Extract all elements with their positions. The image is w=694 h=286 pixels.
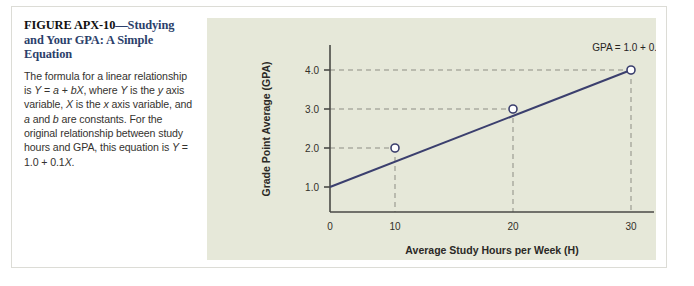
figure-number-label: FIGURE APX-10	[24, 18, 115, 32]
x-tick-label-20: 20	[507, 221, 519, 232]
x-tick-label-30: 30	[625, 221, 637, 232]
x-axis-title: Average Study Hours per Week (H)	[405, 244, 578, 256]
equation-annotation: GPA = 1.0 + 0.1H	[592, 42, 656, 53]
figure-caption-column: FIGURE APX-10—Studying and Your GPA: A S…	[24, 18, 196, 169]
y-axis-title: Grade Point Average (GPA)	[260, 62, 272, 197]
figure-title: FIGURE APX-10—Studying and Your GPA: A S…	[24, 18, 196, 62]
y-tick-label-3: 3.0	[305, 104, 319, 115]
y-tick-label-1: 1.0	[305, 182, 319, 193]
data-point-10-2	[391, 144, 399, 152]
y-tick-label-4: 4.0	[305, 65, 319, 76]
chart-panel: 1.0 2.0 3.0 4.0 0 10 20 30 GPA = 1.0 + 0…	[207, 18, 656, 260]
data-point-20-3	[509, 105, 517, 113]
x-tick-label-10: 10	[389, 221, 401, 232]
figure-card: FIGURE APX-10—Studying and Your GPA: A S…	[11, 6, 667, 268]
gpa-line-chart: 1.0 2.0 3.0 4.0 0 10 20 30 GPA = 1.0 + 0…	[207, 18, 656, 260]
figure-body-text: The formula for a linear relationship is…	[24, 69, 196, 169]
equation-annotation-plain: GPA = 1.0 + 0.1	[592, 42, 656, 53]
y-axis-ticks	[324, 70, 330, 187]
x-tick-label-0: 0	[327, 221, 333, 232]
data-point-30-4	[627, 66, 635, 74]
grid-lines	[330, 70, 631, 212]
y-tick-label-2: 2.0	[305, 143, 319, 154]
gpa-trend-line	[330, 70, 631, 187]
